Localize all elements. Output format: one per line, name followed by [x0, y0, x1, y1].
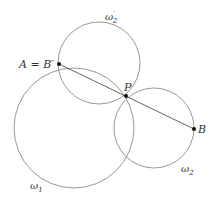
circle-omega1	[14, 68, 134, 188]
circle-label-omega1: ω1	[30, 180, 43, 194]
point-P	[124, 94, 128, 98]
point-label-A: A = B′	[18, 58, 54, 71]
point-label-B: B	[197, 123, 206, 136]
circles-layer	[14, 22, 194, 188]
circle-label-omega2: ω2	[181, 163, 194, 177]
points-layer	[57, 62, 196, 131]
point-label-P: P	[123, 81, 132, 94]
point-B	[192, 127, 196, 131]
geometry-diagram: ω1ω′2ω2A = B′PB	[0, 0, 217, 207]
circle-omega2	[114, 88, 194, 168]
point-A	[57, 62, 61, 66]
